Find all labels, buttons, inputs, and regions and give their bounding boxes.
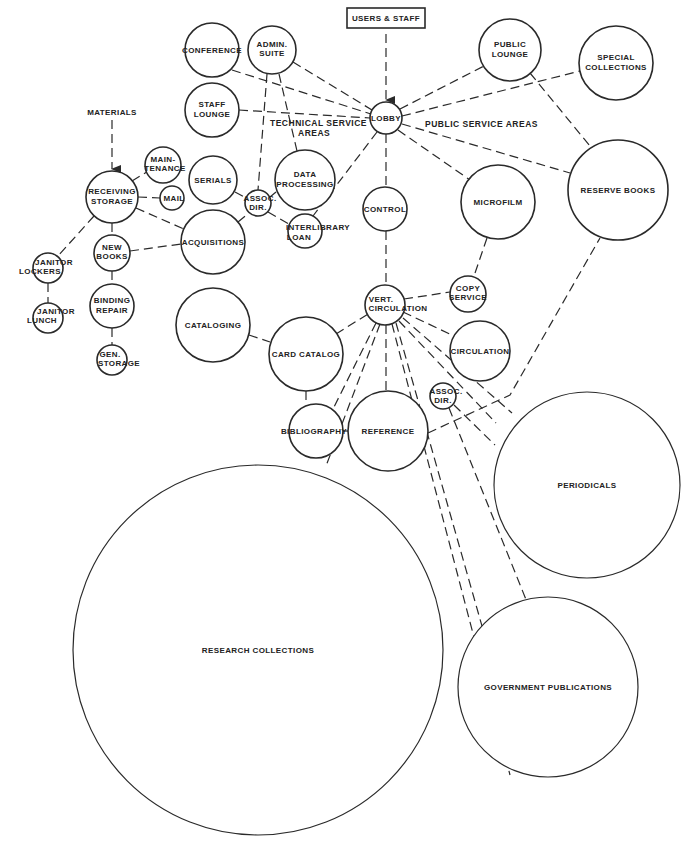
node-control: CONTROL <box>363 187 407 231</box>
node-staff-lounge: STAFFLOUNGE <box>185 83 239 137</box>
svg-text:ACQUISITIONS: ACQUISITIONS <box>182 238 245 247</box>
materials-label: MATERIALS <box>87 108 137 117</box>
svg-text:LOBBY: LOBBY <box>371 114 401 123</box>
svg-text:PUBLIC: PUBLIC <box>494 40 526 49</box>
svg-text:SERVICE: SERVICE <box>449 293 487 302</box>
node-public-lounge: PUBLICLOUNGE <box>479 19 541 81</box>
node-assoc-dir-public: ASSOC.DIR. <box>429 383 462 409</box>
svg-text:STAFF: STAFF <box>198 100 225 109</box>
node-cataloging: CATALOGING <box>176 288 250 362</box>
public-service-areas-label: PUBLIC SERVICE AREAS <box>425 119 538 129</box>
edge-lobby-microfilm <box>398 130 470 180</box>
edge-publiclounge-reserve <box>530 73 590 146</box>
svg-text:CATALOGING: CATALOGING <box>185 321 242 330</box>
edge-admin-assocdir <box>258 74 267 190</box>
edge-lobby-publiclounge <box>400 66 484 109</box>
svg-text:CIRCULATION: CIRCULATION <box>369 304 428 313</box>
svg-text:PROCESSING: PROCESSING <box>276 180 333 189</box>
node-circulation: CIRCULATION <box>450 321 510 381</box>
edge-receiving-acq <box>136 208 184 229</box>
svg-text:MAIL: MAIL <box>163 194 184 203</box>
svg-text:COLLECTIONS: COLLECTIONS <box>585 63 647 72</box>
svg-text:JANITOR: JANITOR <box>37 307 75 316</box>
svg-text:ASSOC.: ASSOC. <box>429 387 462 396</box>
svg-text:LUNCH: LUNCH <box>27 316 57 325</box>
edge-microfilm-copy <box>474 238 487 276</box>
node-janitor-lockers: JANITORLOCKERS <box>19 253 73 283</box>
technical-service-areas-label-2: AREAS <box>298 128 330 138</box>
svg-text:CONTROL: CONTROL <box>364 205 406 214</box>
node-copy-service: COPYSERVICE <box>449 276 487 312</box>
node-reserve-books: RESERVE BOOKS <box>568 140 668 240</box>
svg-text:STORAGE: STORAGE <box>98 359 140 368</box>
svg-text:JANITOR: JANITOR <box>35 258 73 267</box>
technical-service-areas-label: TECHNICAL SERVICE <box>270 118 367 128</box>
svg-text:LOAN: LOAN <box>287 233 311 242</box>
svg-text:REPAIR: REPAIR <box>96 306 128 315</box>
svg-text:LOCKERS: LOCKERS <box>19 267 61 276</box>
svg-text:SPECIAL: SPECIAL <box>597 53 634 62</box>
edge-cataloging-cardcat <box>249 335 270 342</box>
svg-text:BINDING: BINDING <box>94 296 131 305</box>
node-data-processing: DATAPROCESSING <box>275 150 335 210</box>
svg-text:TENANCE: TENANCE <box>144 164 186 173</box>
svg-text:RESERVE BOOKS: RESERVE BOOKS <box>581 186 656 195</box>
edge-conference-lobby <box>232 70 371 114</box>
node-new-books: NEWBOOKS <box>94 235 130 271</box>
edge-lobby-reserve <box>402 124 570 173</box>
node-conference: CONFERENCE <box>182 23 242 77</box>
node-microfilm: MICROFILM <box>461 165 535 239</box>
svg-text:GEN.: GEN. <box>99 350 120 359</box>
node-research-collections: RESEARCH COLLECTIONS <box>73 465 443 835</box>
edge-cardcat-vertcirc <box>336 314 368 334</box>
node-bibliography: BIBLIOGRAPHY <box>281 404 347 458</box>
svg-text:DIR.: DIR. <box>249 203 267 212</box>
node-reference: REFERENCE <box>348 391 428 471</box>
svg-text:REFERENCE: REFERENCE <box>362 427 415 436</box>
node-gen-storage: GEN.STORAGE <box>97 345 140 375</box>
svg-text:MICROFILM: MICROFILM <box>474 198 523 207</box>
edge-lobby-special <box>402 71 580 116</box>
svg-text:RECEIVING: RECEIVING <box>88 187 136 196</box>
edge-vertcirc-circulation <box>403 312 452 335</box>
edge-receiving-janitor <box>58 216 94 256</box>
svg-text:CARD CATALOG: CARD CATALOG <box>272 350 341 359</box>
svg-text:ASSOC.: ASSOC. <box>243 194 276 203</box>
svg-text:GOVERNMENT PUBLICATIONS: GOVERNMENT PUBLICATIONS <box>484 683 612 692</box>
node-lobby: LOBBY <box>370 102 402 134</box>
svg-text:CIRCULATION: CIRCULATION <box>451 347 510 356</box>
edge-acq-assoc <box>238 213 249 222</box>
node-mail: MAIL <box>160 186 185 210</box>
svg-text:CONFERENCE: CONFERENCE <box>182 46 242 55</box>
node-interlibrary-loan: INTERLIBRARYLOAN <box>286 214 350 248</box>
svg-text:SERIALS: SERIALS <box>194 176 232 185</box>
edge-newbooks-acq <box>130 244 181 251</box>
svg-text:DATA: DATA <box>294 170 317 179</box>
node-government-publications: GOVERNMENT PUBLICATIONS <box>458 597 638 777</box>
edge-admin-lobby <box>293 62 372 110</box>
svg-text:BIBLIOGRAPHY: BIBLIOGRAPHY <box>281 427 347 436</box>
edge-receiving-mail <box>138 197 160 198</box>
edge-assocdir-periodicals <box>454 405 495 445</box>
edge-stafflounge-lobby <box>239 110 370 118</box>
node-periodicals: PERIODICALS <box>494 392 680 578</box>
library-adjacency-diagram: USERS & STAFF MATERIALS TECHNICAL SERVIC… <box>0 0 693 846</box>
svg-text:DIR.: DIR. <box>434 396 452 405</box>
users-staff-box: USERS & STAFF <box>347 8 425 28</box>
node-janitor-lunch: JANITORLUNCH <box>27 303 75 333</box>
svg-text:COPY: COPY <box>456 284 481 293</box>
node-card-catalog: CARD CATALOG <box>269 317 343 391</box>
node-admin-suite: ADMIN.SUITE <box>248 26 296 74</box>
users-staff-label: USERS & STAFF <box>352 14 420 23</box>
svg-text:LOUNGE: LOUNGE <box>194 110 231 119</box>
edge-vertcirc-copy <box>404 292 450 299</box>
svg-text:LOUNGE: LOUNGE <box>492 50 529 59</box>
node-serials: SERIALS <box>189 156 237 204</box>
svg-text:SUITE: SUITE <box>259 49 285 58</box>
node-receiving-storage: RECEIVINGSTORAGE <box>86 171 138 223</box>
node-binding-repair: BINDINGREPAIR <box>90 284 134 328</box>
svg-text:NEW: NEW <box>102 243 122 252</box>
svg-text:VERT.: VERT. <box>369 295 394 304</box>
svg-text:RESEARCH COLLECTIONS: RESEARCH COLLECTIONS <box>202 646 315 655</box>
svg-text:MAIN-: MAIN- <box>150 155 175 164</box>
